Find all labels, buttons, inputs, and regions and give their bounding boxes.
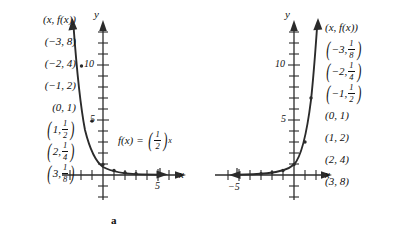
- point-fraction: 1 8: [348, 39, 354, 59]
- point-item: (−1, 2): [45, 74, 76, 96]
- curve-b-left-arrowhead: [229, 171, 241, 179]
- point-item: (1, 2): [325, 126, 349, 148]
- point-fraction: 1 2: [348, 83, 354, 103]
- point-list-header: (x, f(x)): [43, 8, 76, 30]
- point-item: ( −3, 1 8 ): [325, 38, 362, 60]
- point-fraction: 1 4: [348, 61, 354, 81]
- y-tick-label-10: 10: [84, 58, 94, 69]
- point-item: ( 3, 1 8 ): [46, 162, 76, 184]
- point-fraction: 1 2: [62, 119, 68, 139]
- point-item: (0, 1): [52, 96, 76, 118]
- curve-two-power-x: [237, 28, 317, 175]
- panel-b: y x 10 5 −5 f(x) = 2 x (x, f(x)) ( −3, 1…: [197, 0, 394, 239]
- y-tick-label-5: 5: [90, 113, 95, 124]
- formula-a-base-fraction: 1 2: [154, 130, 160, 150]
- panel-b-point-list: (x, f(x)) ( −3, 1 8 ) ( −2, 1 4: [325, 16, 393, 192]
- panel-a-point-list: (x, f(x)) (−3, 8) (−2, 4) (−1, 2) (0, 1)…: [4, 8, 76, 184]
- point-item: (−3, 8): [45, 30, 76, 52]
- point-list-header: (x, f(x)): [325, 16, 358, 38]
- formula-a-equals: =: [136, 134, 143, 146]
- x-axis-label: x: [179, 168, 184, 180]
- point-item: ( −1, 1 2 ): [325, 82, 362, 104]
- formula-a-exponent: x: [168, 136, 172, 145]
- x-tick-label-minus-5: −5: [228, 181, 240, 192]
- point-item: ( 2, 1 4 ): [46, 140, 76, 162]
- point-item: (−2, 4): [45, 52, 76, 74]
- panel-a: y x 10 5 5 f(x) = ( 1 2 ) x (x, f(x)) (−…: [0, 0, 197, 239]
- formula-a-lhs: f(x): [118, 134, 133, 146]
- point-fraction: 1 8: [62, 163, 68, 183]
- exponential-functions-figure: y x 10 5 5 f(x) = ( 1 2 ) x (x, f(x)) (−…: [0, 0, 394, 239]
- formula-a-open-paren: (: [148, 132, 152, 148]
- y-tick-label-10: 10: [275, 58, 285, 69]
- formula-a-close-paren: ): [163, 132, 167, 148]
- point-fraction: 1 4: [62, 141, 68, 161]
- point-item: ( −2, 1 4 ): [325, 60, 362, 82]
- curve-b-upper-arrowhead: [313, 18, 322, 30]
- formula-panel-a: f(x) = ( 1 2 ) x: [118, 130, 172, 150]
- curve-half-power-x: [74, 26, 161, 175]
- y-axis-arrowhead: [99, 20, 107, 31]
- point-item: ( 1, 1 2 ): [46, 118, 76, 140]
- panel-a-letter: a: [111, 214, 117, 226]
- y-tick-label-5: 5: [281, 113, 286, 124]
- x-tick-label-5: 5: [155, 180, 160, 191]
- point-item: (2, 4): [325, 148, 349, 170]
- curve-a-right-arrowhead: [157, 171, 169, 179]
- point-item: (3, 8): [325, 170, 349, 192]
- point-item: (0, 1): [325, 104, 349, 126]
- y-axis-arrowhead: [290, 20, 298, 31]
- y-axis-label: y: [94, 8, 99, 20]
- y-axis-label: y: [285, 8, 290, 20]
